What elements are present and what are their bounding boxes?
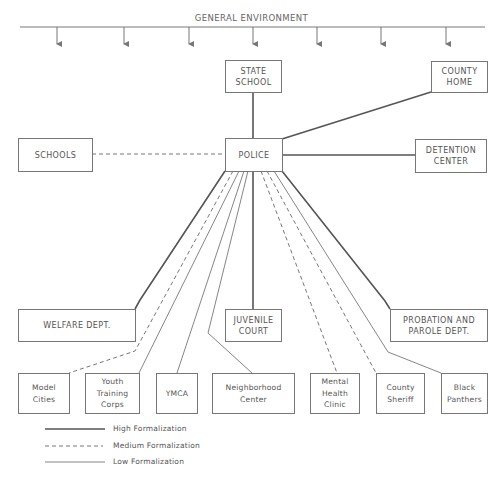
- edge-youth-training: [139, 171, 239, 373]
- node-youth-training-corps: Youth Training Corps: [85, 373, 140, 414]
- node-label: STATE SCHOOL: [235, 66, 271, 88]
- legend-high-label: High Formalization: [113, 424, 187, 433]
- node-label: Youth Training Corps: [97, 376, 129, 411]
- node-county-home: COUNTY HOME: [431, 61, 488, 93]
- node-probation-parole: PROBATION AND PAROLE DEPT.: [390, 309, 488, 342]
- node-mental-health-clinic: Mental Health Clinic: [310, 373, 360, 414]
- edge-ymca: [177, 171, 244, 373]
- node-model-cities: Model Cities: [18, 373, 70, 414]
- node-label: DETENTION CENTER: [426, 145, 476, 167]
- node-label: WELFARE DEPT.: [43, 320, 111, 331]
- node-label: YMCA: [166, 388, 189, 400]
- legend-medium-label: Medium Formalization: [113, 441, 200, 450]
- node-juvenile-court: JUVENILE COURT: [225, 309, 282, 342]
- node-county-sheriff: County Sheriff: [376, 373, 425, 414]
- node-label: PROBATION AND PAROLE DEPT.: [403, 315, 475, 337]
- legend-low-label: Low Formalization: [113, 457, 184, 466]
- diagram-title: GENERAL ENVIRONMENT: [0, 13, 503, 23]
- edge-neighborhood: [208, 171, 252, 373]
- edge-model-cities: [69, 171, 233, 373]
- node-label: Neighborhood Center: [226, 382, 282, 405]
- node-police: POLICE: [225, 138, 283, 172]
- node-ymca: YMCA: [156, 373, 198, 414]
- node-label: Model Cities: [32, 382, 56, 405]
- node-label: Mental Health Clinic: [322, 376, 349, 411]
- node-label: SCHOOLS: [35, 150, 77, 161]
- node-state-school: STATE SCHOOL: [225, 60, 282, 93]
- node-label: Black Panthers: [447, 382, 482, 405]
- node-welfare-dept: WELFARE DEPT.: [18, 309, 136, 342]
- node-detention-center: DETENTION CENTER: [415, 139, 487, 173]
- node-black-panthers: Black Panthers: [441, 373, 488, 414]
- node-schools: SCHOOLS: [18, 138, 93, 172]
- edge-probation: [282, 171, 390, 309]
- edge-county-home: [282, 92, 431, 139]
- node-label: POLICE: [239, 150, 270, 161]
- node-label: County Sheriff: [386, 382, 414, 405]
- edge-welfare: [135, 171, 225, 309]
- environment-arrows: [57, 27, 446, 44]
- node-label: COUNTY HOME: [442, 66, 478, 88]
- node-label: JUVENILE COURT: [234, 315, 274, 337]
- edge-county-sheriff: [267, 171, 376, 373]
- edge-mental-health: [261, 171, 337, 373]
- node-neighborhood-center: Neighborhood Center: [212, 373, 295, 414]
